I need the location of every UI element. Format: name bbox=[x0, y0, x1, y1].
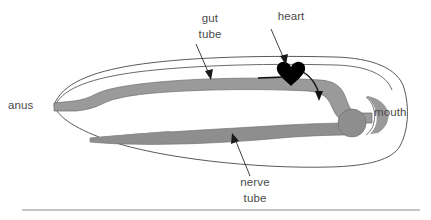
blood-flow-inflow-line bbox=[258, 77, 284, 78]
label-nerve-tube-line1: nerve bbox=[240, 176, 269, 188]
label-mouth: mouth bbox=[374, 106, 406, 118]
label-gut-tube-line2: tube bbox=[199, 28, 222, 40]
heart-arrow bbox=[271, 29, 284, 59]
label-gut-tube-line1: gut bbox=[202, 12, 219, 24]
brain-bulb bbox=[338, 109, 366, 137]
label-heart: heart bbox=[278, 10, 305, 22]
label-anus: anus bbox=[8, 99, 33, 111]
label-nerve-tube-line2: tube bbox=[244, 192, 267, 204]
chordate-body-plan-diagram: anus mouth gut tube heart nerve tube bbox=[0, 0, 431, 220]
figure-canvas: anus mouth gut tube heart nerve tube bbox=[0, 0, 431, 220]
